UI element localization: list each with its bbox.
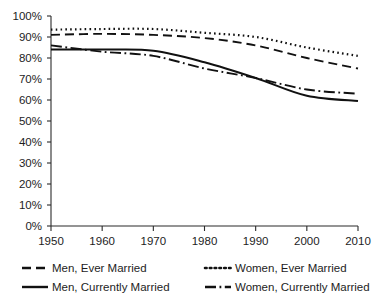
y-tick-label: 80%: [19, 52, 42, 64]
chart-canvas: 0%10%20%30%40%50%60%70%80%90%100% 195019…: [0, 0, 382, 305]
x-tick-label: 2010: [345, 235, 371, 247]
x-tick-label: 2000: [294, 235, 320, 247]
series-line: [51, 49, 358, 101]
x-axis-tick-labels: 1950196019701980199020002010: [38, 235, 371, 247]
legend-item-label: Women, Ever Married: [235, 262, 347, 274]
x-tick-label: 1990: [243, 235, 269, 247]
x-tick-label: 1960: [89, 235, 115, 247]
y-tick-label: 70%: [19, 73, 42, 85]
y-tick-label: 0%: [25, 220, 42, 232]
y-tick-label: 10%: [19, 199, 42, 211]
legend-item[interactable]: Men, Ever Married: [22, 262, 147, 274]
x-tick-label: 1980: [192, 235, 218, 247]
chart-legend: Men, Ever MarriedWomen, Ever MarriedMen,…: [22, 262, 370, 293]
y-tick-label: 30%: [19, 157, 42, 169]
y-tick-label: 50%: [19, 115, 42, 127]
data-series-group: [51, 29, 358, 101]
legend-item[interactable]: Men, Currently Married: [22, 281, 170, 293]
y-tick-label: 100%: [13, 10, 42, 22]
x-tick-label: 1970: [141, 235, 167, 247]
legend-item-label: Men, Currently Married: [52, 281, 170, 293]
legend-item-label: Men, Ever Married: [52, 262, 147, 274]
y-tick-label: 20%: [19, 178, 42, 190]
x-axis-tick-marks: [51, 226, 358, 231]
legend-item-label: Women, Currently Married: [235, 281, 370, 293]
x-tick-label: 1950: [38, 235, 64, 247]
y-tick-label: 90%: [19, 31, 42, 43]
series-line: [51, 45, 358, 93]
legend-item[interactable]: Women, Currently Married: [205, 281, 370, 293]
y-axis-tick-labels: 0%10%20%30%40%50%60%70%80%90%100%: [13, 10, 42, 232]
y-axis-tick-marks: [47, 16, 51, 226]
legend-item[interactable]: Women, Ever Married: [205, 262, 347, 274]
y-tick-label: 40%: [19, 136, 42, 148]
y-tick-label: 60%: [19, 94, 42, 106]
line-chart: 0%10%20%30%40%50%60%70%80%90%100% 195019…: [0, 0, 382, 305]
